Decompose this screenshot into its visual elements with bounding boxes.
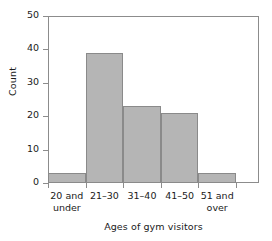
histogram-figure: Count 01020304050 20 andunder21–3031–404… bbox=[0, 0, 272, 241]
histogram-bar bbox=[123, 106, 161, 183]
x-axis-category-label: 51 andover bbox=[192, 190, 242, 213]
y-axis-tick-label: 40 bbox=[27, 42, 39, 53]
x-axis-category-label-line: over bbox=[192, 202, 242, 214]
bars-group bbox=[48, 16, 259, 183]
x-axis-tick-mark bbox=[161, 183, 162, 188]
y-axis-tick-label: 30 bbox=[27, 76, 39, 87]
histogram-bar bbox=[198, 173, 236, 183]
x-axis-title: Ages of gym visitors bbox=[48, 221, 259, 232]
y-axis-tick-label: 10 bbox=[27, 143, 39, 154]
x-axis-tick-mark bbox=[198, 183, 199, 188]
x-axis-ticks bbox=[48, 183, 259, 189]
y-axis-tick-label: 20 bbox=[27, 109, 39, 120]
y-axis-tick: 10 bbox=[0, 150, 48, 151]
y-axis-tick: 20 bbox=[0, 116, 48, 117]
x-axis-category-label-line: under bbox=[42, 202, 92, 214]
x-axis-tick-mark bbox=[86, 183, 87, 188]
histogram-bar bbox=[86, 53, 124, 183]
y-axis-title: Count bbox=[7, 42, 18, 122]
y-axis-tick: 0 bbox=[0, 183, 48, 184]
x-axis-tick-mark bbox=[123, 183, 124, 188]
x-axis-category-label-line: 51 and bbox=[192, 190, 242, 202]
y-axis-tick-label: 0 bbox=[33, 176, 39, 187]
y-axis-tick: 50 bbox=[0, 16, 48, 17]
x-axis-category-labels: 20 andunder21–3031–4041–5051 andover bbox=[48, 190, 259, 220]
y-axis-tick: 40 bbox=[0, 49, 48, 50]
y-axis-tick-label: 50 bbox=[27, 9, 39, 20]
y-axis-tick: 30 bbox=[0, 83, 48, 84]
x-axis-tick-mark bbox=[236, 183, 237, 188]
x-axis-tick-mark bbox=[48, 183, 49, 188]
histogram-bar bbox=[161, 113, 199, 183]
histogram-bar bbox=[48, 173, 86, 183]
